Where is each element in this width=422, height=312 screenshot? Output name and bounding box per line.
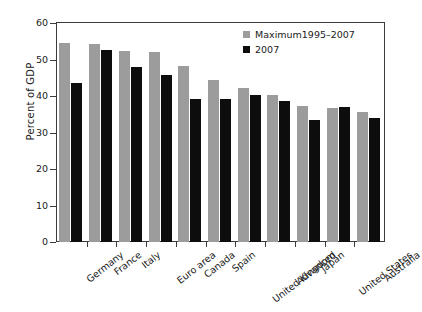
bar-2007 bbox=[250, 95, 261, 242]
x-axis-tick bbox=[325, 242, 326, 247]
bar-maximum bbox=[327, 108, 338, 242]
bar-2007 bbox=[71, 83, 82, 242]
y-axis-tick-label: 40 bbox=[22, 90, 48, 101]
bar-2007 bbox=[101, 50, 112, 242]
y-axis-tick-label: 50 bbox=[22, 54, 48, 65]
bar-maximum bbox=[208, 80, 219, 242]
y-axis-title: Percent of GDP bbox=[25, 32, 36, 172]
bar-maximum bbox=[178, 66, 189, 242]
x-axis-tick bbox=[295, 242, 296, 247]
bar-maximum bbox=[119, 51, 130, 242]
legend-item: 2007 bbox=[243, 42, 355, 56]
bar-2007 bbox=[220, 99, 231, 242]
x-axis-tick bbox=[265, 242, 266, 247]
x-axis-tick bbox=[116, 242, 117, 247]
y-axis-tick-label: 60 bbox=[22, 17, 48, 28]
bar-maximum bbox=[59, 43, 70, 242]
legend-swatch-icon bbox=[243, 31, 250, 38]
x-axis-tick bbox=[206, 242, 207, 247]
bar-2007 bbox=[161, 75, 172, 242]
x-axis-tick bbox=[146, 242, 147, 247]
legend-swatch-icon bbox=[243, 46, 250, 53]
x-axis-tick bbox=[235, 242, 236, 247]
bar-maximum bbox=[149, 52, 160, 242]
bar-2007 bbox=[190, 99, 201, 242]
x-axis-label: Japan bbox=[319, 249, 347, 274]
bar-maximum bbox=[238, 88, 249, 242]
bar-maximum bbox=[297, 106, 308, 243]
bar-2007 bbox=[309, 120, 320, 242]
bar-2007 bbox=[369, 118, 380, 242]
x-axis-tick bbox=[176, 242, 177, 247]
y-axis-tick-label: 0 bbox=[22, 236, 48, 247]
y-axis-tick-label: 20 bbox=[22, 163, 48, 174]
bar-2007 bbox=[339, 107, 350, 242]
bar-maximum bbox=[357, 112, 368, 242]
x-axis-tick bbox=[354, 242, 355, 247]
chart-legend: Maximum1995–20072007 bbox=[243, 27, 355, 57]
bar-2007 bbox=[279, 101, 290, 242]
y-axis-tick-label: 10 bbox=[22, 200, 48, 211]
bar-maximum bbox=[89, 44, 100, 242]
y-axis-tick bbox=[50, 242, 56, 243]
y-axis-tick-label: 30 bbox=[22, 127, 48, 138]
legend-label: 2007 bbox=[255, 44, 279, 55]
bar-maximum bbox=[267, 95, 278, 242]
x-axis-label: Italy bbox=[139, 249, 162, 270]
bar-2007 bbox=[131, 67, 142, 242]
x-axis-tick bbox=[87, 242, 88, 247]
legend-item: Maximum1995–2007 bbox=[243, 27, 355, 41]
legend-label: Maximum1995–2007 bbox=[255, 29, 355, 40]
